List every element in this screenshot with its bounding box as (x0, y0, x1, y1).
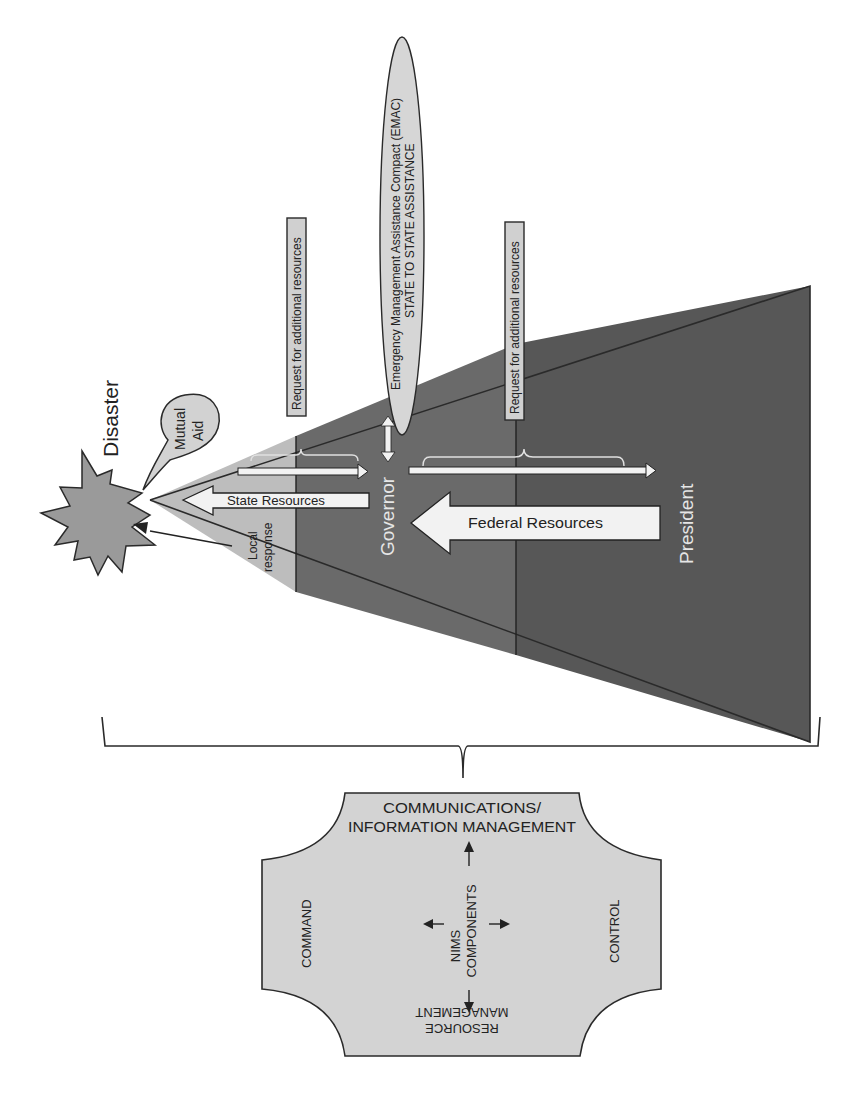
nims-bottom-line-1: RESOURCE (425, 1021, 499, 1036)
local-response-line-2: response (261, 522, 275, 572)
nims-components-box: COMMUNICATIONS/ INFORMATION MANAGEMENT C… (262, 793, 661, 1056)
request-box-state: Request for additional resources (287, 218, 306, 416)
resource-escalation-diagram: Disaster Mutual Aid Local response Reque… (0, 0, 846, 1103)
nims-top-line-1: COMMUNICATIONS/ (383, 800, 541, 816)
nims-left-command: COMMAND (299, 899, 314, 968)
nims-right-control: CONTROL (607, 899, 622, 963)
starburst-icon (41, 451, 155, 575)
request-box-federal: Request for additional resources (505, 222, 524, 420)
president-label: President (676, 483, 697, 564)
nims-bottom-line-2: MANAGEMENT (415, 1005, 508, 1020)
request-box-federal-label: Request for additional resources (508, 241, 522, 414)
emac-line-1: Emergency Management Assistance Compact … (389, 98, 403, 390)
governor-label: Governor (377, 476, 398, 556)
emac-line-2: STATE TO STATE ASSISTANCE (403, 144, 417, 318)
emac-ellipse: Emergency Management Assistance Compact … (380, 37, 424, 435)
mutual-aid-label-1: Mutual (172, 408, 188, 450)
local-response-line-1: Local (246, 531, 260, 560)
nims-top-line-2: INFORMATION MANAGEMENT (348, 819, 577, 835)
nims-center-line-2: COMPONENTS (464, 884, 479, 978)
mutual-aid-label-2: Aid (190, 421, 206, 441)
state-resources-label: State Resources (227, 493, 326, 508)
federal-resources-label: Federal Resources (468, 515, 603, 531)
request-box-state-label: Request for additional resources (290, 237, 304, 410)
nims-center-line-1: NIMS (448, 929, 463, 962)
grouping-bracket-icon (102, 717, 820, 778)
disaster-label: Disaster (99, 380, 122, 457)
